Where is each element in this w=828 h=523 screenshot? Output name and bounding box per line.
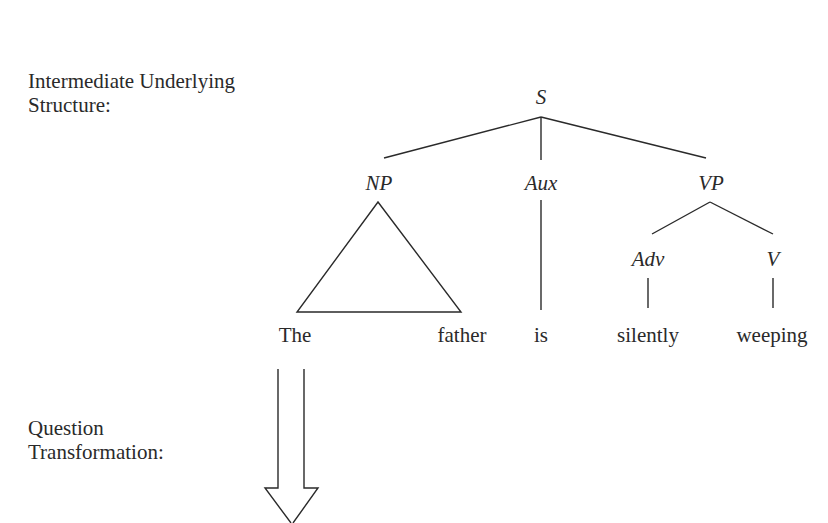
word-is: is [534, 323, 548, 347]
node-s: S [536, 85, 547, 109]
down-arrow-icon [265, 369, 318, 523]
tree-branches [297, 117, 773, 312]
word-father: father [438, 323, 487, 347]
branch-s-np [384, 117, 541, 158]
np-triangle [297, 202, 461, 312]
node-vp: VP [698, 171, 724, 195]
branch-vp-adv [652, 202, 710, 234]
word-the: The [279, 323, 312, 347]
node-aux: Aux [523, 171, 558, 195]
node-v: V [767, 247, 782, 271]
node-adv: Adv [630, 247, 665, 271]
word-weeping: weeping [736, 323, 808, 347]
word-silently: silently [617, 323, 679, 347]
branch-vp-v [710, 202, 773, 234]
syntax-tree: S NP Aux VP Adv V The father is silently… [0, 0, 828, 523]
node-np: NP [365, 171, 393, 195]
branch-s-vp [541, 117, 706, 158]
